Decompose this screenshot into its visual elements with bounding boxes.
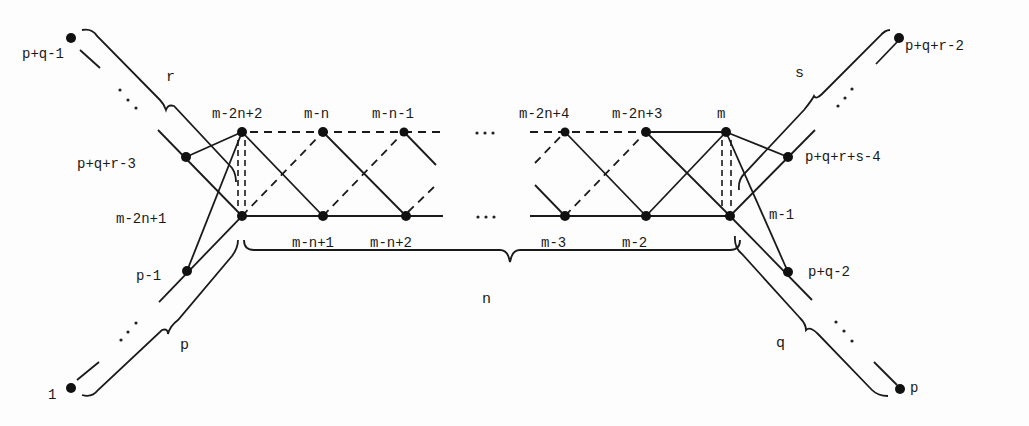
right-upper-chain-stub [876,40,899,64]
label-m-2n+4: m-2n+4 [519,106,569,122]
brace-label-p: p [180,338,189,354]
dashed-diagonal-partial [535,132,565,163]
brace-p [82,240,238,396]
label-m-n-1: m-n-1 [372,106,414,122]
node-m-n+2 [401,211,411,221]
label-m-3: m-3 [541,235,566,251]
brace-label-s: s [795,66,804,82]
brace-label-n: n [482,292,491,308]
brace-label-r: r [166,70,175,86]
label-p: p [910,380,918,396]
node-1 [66,383,76,393]
node-m-2n+1 [237,211,247,221]
right-lower-chain-line [730,216,812,300]
label-m-n+1: m-n+1 [292,235,334,251]
label-p-1: p-1 [136,268,161,284]
label-1: 1 [48,387,56,403]
node-m-2n+4 [561,128,570,137]
node-m-2n+2 [237,127,247,137]
node-m-n+1 [318,211,328,221]
label-m-2n+2: m-2n+2 [212,106,262,122]
label-p+q-2: p+q-2 [808,264,850,280]
brace-q [735,236,888,396]
label-m-2n+3: m-2n+3 [612,106,662,122]
node-m-n [318,127,328,137]
node-m-2n+3 [641,127,651,137]
left-upper-chain-line [158,130,242,216]
graph-diagram: m-2n+2 m-n m-n-1 m-2n+4 m-2n+3 m m-2n+1 … [0,0,1029,426]
label-m: m [717,106,725,122]
label-p+q-1: p+q-1 [22,46,64,62]
node-m-3 [560,211,570,221]
solid-diagonal-partial [535,185,565,216]
label-m-1: m-1 [769,207,794,223]
node-p [895,384,905,394]
node-p+q-1 [66,33,76,43]
node-m [721,127,731,137]
label-p+q+r-2: p+q+r-2 [905,38,964,54]
brace-label-q: q [776,336,785,352]
dashed-diagonal-partial [408,185,436,212]
solid-diagonal-partial [404,132,436,165]
node-m-2 [641,211,651,221]
label-m-2n+1: m-2n+1 [116,211,166,227]
node-p-1 [182,266,192,276]
right-lower-chain-stub [874,362,897,385]
node-m-n-1 [400,128,409,137]
node-p+q+r-3 [181,152,191,162]
node-p+q-2 [783,267,793,277]
left-upper-chain-stub [80,50,100,68]
node-m-1 [725,211,735,221]
label-m-n+2: m-n+2 [370,235,412,251]
node-p+q+r-2 [894,33,904,43]
node-p+q+r+s-4 [783,152,793,162]
label-m-n: m-n [304,106,329,122]
label-p+q+r-3: p+q+r-3 [77,156,136,172]
brace-s [739,30,890,190]
label-m-2: m-2 [622,235,647,251]
left-lower-chain-stub [77,362,99,380]
label-p+q+r+s-4: p+q+r+s-4 [805,149,881,165]
